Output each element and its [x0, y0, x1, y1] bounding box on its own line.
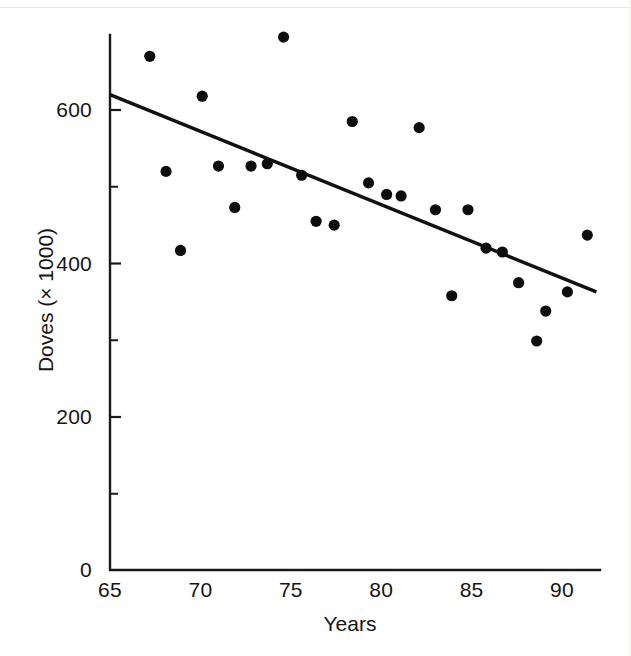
data-point [540, 305, 551, 316]
y-axis-ticks [110, 110, 121, 494]
data-point [175, 245, 186, 256]
axes-group [110, 35, 600, 570]
data-point [363, 177, 374, 188]
y-axis-title: Doves (× 1000) [34, 228, 58, 372]
data-point [497, 246, 508, 257]
data-point [430, 204, 441, 215]
data-point [582, 230, 593, 241]
data-point [562, 286, 573, 297]
x-tick-label-65: 65 [98, 578, 122, 602]
x-tick-label-80: 80 [369, 578, 393, 602]
y-tick-label-600: 600 [0, 98, 92, 122]
data-point [329, 220, 340, 231]
x-tick-label-85: 85 [460, 578, 484, 602]
data-point [462, 204, 473, 215]
data-point [160, 166, 171, 177]
y-tick-label-0: 0 [0, 558, 92, 582]
data-point [197, 91, 208, 102]
data-point [229, 202, 240, 213]
data-point [381, 189, 392, 200]
axis-lines [110, 35, 600, 570]
y-tick-label-200: 200 [0, 405, 92, 429]
data-point [144, 51, 155, 62]
chart-figure: 657075808590 0200400600 Years Doves (× 1… [0, 0, 631, 656]
x-tick-label-70: 70 [189, 578, 213, 602]
data-points [144, 31, 593, 346]
data-point [213, 160, 224, 171]
x-tick-label-90: 90 [550, 578, 574, 602]
data-point [262, 158, 273, 169]
data-point [296, 170, 307, 181]
data-point [395, 190, 406, 201]
data-point [245, 160, 256, 171]
data-point [311, 216, 322, 227]
data-point [446, 290, 457, 301]
data-point [278, 31, 289, 42]
data-point [347, 116, 358, 127]
data-point [513, 277, 524, 288]
scatter-plot-canvas [0, 0, 631, 656]
data-point [480, 243, 491, 254]
x-axis-title: Years [324, 612, 377, 636]
data-point [414, 122, 425, 133]
data-point [531, 335, 542, 346]
x-tick-label-75: 75 [279, 578, 303, 602]
